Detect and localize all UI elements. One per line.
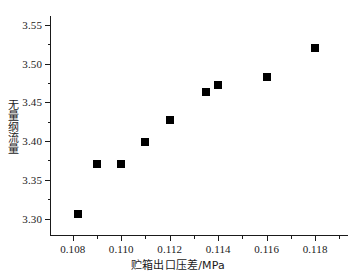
x-tick-label: 0.110 xyxy=(109,243,134,255)
y-tick-minor xyxy=(48,44,52,45)
y-tick-major xyxy=(45,102,51,103)
y-tick-minor xyxy=(48,160,52,161)
x-tick-minor xyxy=(97,235,98,239)
data-point-marker xyxy=(117,160,125,168)
y-tick-label: 3.50 xyxy=(22,58,42,70)
data-point-marker xyxy=(166,116,174,124)
x-tick-major xyxy=(218,235,219,241)
x-tick-major xyxy=(73,235,74,241)
data-point-marker xyxy=(311,44,319,52)
x-tick-major xyxy=(267,235,268,241)
data-point-marker xyxy=(141,138,149,146)
x-tick-minor xyxy=(242,235,243,239)
scatter-chart-figure: 3.303.353.403.453.503.55 0.1080.1100.112… xyxy=(0,0,356,276)
y-tick-major xyxy=(45,219,51,220)
y-tick-major xyxy=(45,141,51,142)
plot-area: 3.303.353.403.453.503.55 0.1080.1100.112… xyxy=(50,16,348,236)
data-point-marker xyxy=(263,73,271,81)
x-tick-label: 0.114 xyxy=(206,243,231,255)
x-tick-minor xyxy=(194,235,195,239)
x-tick-minor xyxy=(339,235,340,239)
x-tick-minor xyxy=(145,235,146,239)
x-tick-label: 0.108 xyxy=(60,243,85,255)
y-tick-label: 3.40 xyxy=(22,135,42,147)
x-tick-major xyxy=(121,235,122,241)
y-tick-label: 3.45 xyxy=(22,96,42,108)
x-axis-title: 贮箱出口压差/MPa xyxy=(0,256,356,272)
data-point-marker xyxy=(202,88,210,96)
y-tick-minor xyxy=(48,199,52,200)
x-tick-minor xyxy=(291,235,292,239)
x-tick-label: 0.116 xyxy=(254,243,279,255)
x-tick-major xyxy=(170,235,171,241)
y-tick-major xyxy=(45,180,51,181)
y-tick-minor xyxy=(48,122,52,123)
y-tick-label: 3.55 xyxy=(22,19,42,31)
data-point-marker xyxy=(93,160,101,168)
x-tick-label: 0.118 xyxy=(303,243,328,255)
y-tick-major xyxy=(45,64,51,65)
data-point-marker xyxy=(214,81,222,89)
y-tick-minor xyxy=(48,83,52,84)
data-point-marker xyxy=(74,210,82,218)
y-tick-major xyxy=(45,25,51,26)
x-tick-major xyxy=(315,235,316,241)
y-tick-label: 3.30 xyxy=(22,213,42,225)
y-axis-title: 无量纲流量 xyxy=(4,99,18,154)
x-tick-label: 0.112 xyxy=(157,243,182,255)
y-tick-label: 3.35 xyxy=(22,174,42,186)
